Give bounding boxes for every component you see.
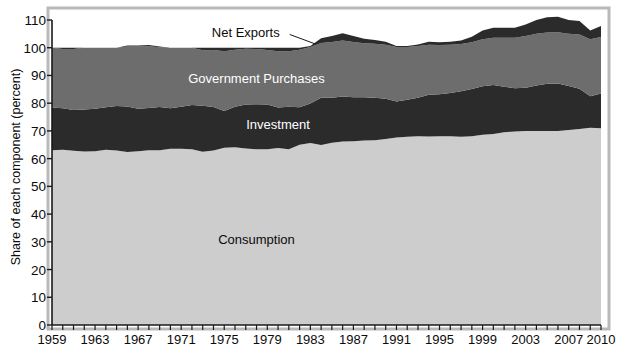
x-tick-label: 1991 [382,332,411,347]
x-tick-label: 1959 [38,332,67,347]
x-tick-label: 1971 [167,332,196,347]
x-axis-tick-labels: 1959196319671971197519791983198719911995… [0,330,618,354]
x-tick-label: 1967 [124,332,153,347]
annotation-net-exports: Net Exports [212,25,280,40]
x-tick-label: 2003 [511,332,540,347]
x-tick-label: 1979 [253,332,282,347]
annotation-consumption: Consumption [218,232,295,247]
x-tick-label: 1995 [425,332,454,347]
x-tick-label: 1963 [81,332,110,347]
x-tick-label: 1983 [296,332,325,347]
x-tick-label: 1999 [468,332,497,347]
stacked-area-chart: Share of each component (percent) 010203… [0,0,618,357]
x-tick-label: 1987 [339,332,368,347]
plot-area [0,0,618,357]
x-tick-label: 1975 [210,332,239,347]
x-tick-label: 2007 [554,332,583,347]
x-tick-label: 2010 [587,332,616,347]
area-band-consumption [52,128,601,325]
annotation-government-purchases: Government Purchases [188,71,325,86]
annotation-investment: Investment [246,116,310,131]
